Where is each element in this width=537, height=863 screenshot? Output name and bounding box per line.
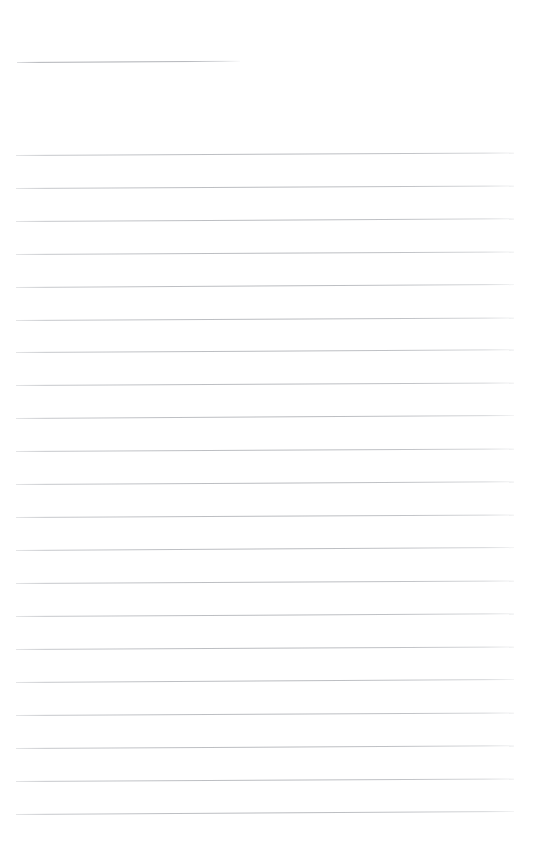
- ruled-line: [16, 580, 514, 584]
- ruled-line: [17, 61, 240, 63]
- ruled-line: [16, 448, 514, 452]
- ruled-line: [16, 481, 514, 485]
- ruled-line: [16, 514, 514, 518]
- ruled-line: [16, 317, 514, 321]
- ruled-line: [16, 152, 514, 156]
- ruled-lines-layer: [0, 0, 537, 863]
- ruled-line: [16, 613, 514, 617]
- ruled-line: [16, 185, 514, 189]
- ruled-line: [16, 778, 514, 782]
- ruled-line: [16, 712, 514, 716]
- ruled-line: [16, 547, 514, 551]
- document-page: [0, 0, 537, 863]
- ruled-line: [16, 646, 514, 650]
- ruled-line: [16, 745, 514, 749]
- ruled-line: [16, 679, 514, 683]
- ruled-line: [16, 382, 514, 386]
- ruled-line: [16, 284, 514, 288]
- ruled-line: [16, 218, 514, 222]
- ruled-line: [16, 349, 514, 353]
- ruled-line: [16, 415, 514, 419]
- ruled-line: [16, 811, 514, 815]
- ruled-line: [16, 251, 514, 255]
